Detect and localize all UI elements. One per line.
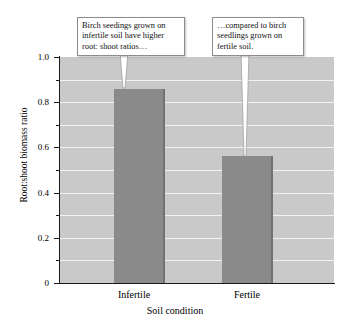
- gridline-0.4: [60, 193, 334, 194]
- y-tick-label-0.4: 0.4: [38, 189, 49, 198]
- gridline-0.3: [60, 215, 334, 216]
- y-tick-label-1.0: 1.0: [38, 53, 49, 62]
- y-tick-minor-0.1: [56, 260, 60, 261]
- gridline-0.5: [60, 170, 334, 171]
- x-axis-line: [59, 283, 335, 284]
- y-tick-minor-0.3: [56, 215, 60, 216]
- y-tick-minor-0.7: [56, 125, 60, 126]
- y-tick-label-0.2: 0.2: [38, 234, 49, 243]
- bar-fertile[interactable]: [222, 156, 273, 283]
- gridline-0.6: [60, 147, 334, 148]
- gridline-0.2: [60, 238, 334, 239]
- infertile-callout-pointer: [116, 52, 146, 92]
- gridline-0.9: [60, 80, 334, 81]
- gridline-0.7: [60, 125, 334, 126]
- plot-area: [60, 57, 334, 283]
- fertile-callout-pointer: [237, 52, 267, 162]
- x-tick-label-infertile: Infertile: [84, 289, 184, 300]
- infertile-callout: Birch seedings grown on infertile soil h…: [77, 17, 185, 56]
- y-tick-1.0: [54, 57, 60, 58]
- gridline-0.1: [60, 260, 334, 261]
- y-tick-0.6: [54, 147, 60, 148]
- y-tick-0.8: [54, 102, 60, 103]
- y-tick-label-0.8: 0.8: [38, 98, 49, 107]
- fertile-callout: …compared to birch seedlings grown on fe…: [212, 17, 304, 56]
- y-axis-title: Root:shoot biomass ratio: [19, 85, 29, 225]
- y-tick-label-0: 0: [45, 279, 50, 288]
- bar-infertile[interactable]: [114, 89, 165, 283]
- y-tick-0: [54, 283, 60, 284]
- y-tick-minor-0.9: [56, 80, 60, 81]
- y-tick-0.4: [54, 193, 60, 194]
- y-tick-minor-0.5: [56, 170, 60, 171]
- x-tick-label-fertile: Fertile: [197, 289, 297, 300]
- x-axis-title: Soil condition: [0, 305, 350, 316]
- bar-chart-figure: 1.0 0.8 0.6 0.4 0.2 0 Root:shoot biomass…: [0, 0, 350, 331]
- y-tick-0.2: [54, 238, 60, 239]
- y-tick-label-0.6: 0.6: [38, 143, 49, 152]
- gridline-0.8: [60, 102, 334, 103]
